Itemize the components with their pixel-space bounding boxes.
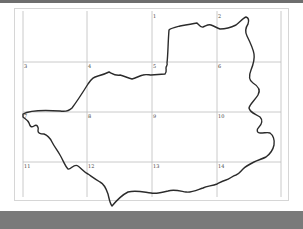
grid-label-5: 5 (153, 64, 156, 69)
grid-label-9: 9 (153, 114, 156, 119)
grid-label-6: 6 (218, 64, 221, 69)
grid-label-14: 14 (218, 164, 224, 169)
grid-label-12: 12 (88, 164, 94, 169)
grid-label-7: 7 (24, 114, 27, 119)
grid-label-3: 3 (24, 64, 27, 69)
region-outline (23, 17, 274, 206)
bottom-bar (0, 211, 303, 229)
grid-label-13: 13 (153, 164, 159, 169)
grid-label-8: 8 (88, 114, 91, 119)
grid-label-2: 2 (218, 14, 221, 19)
grid-label-4: 4 (88, 64, 91, 69)
grid-label-1: 1 (153, 14, 156, 19)
grid-label-10: 10 (218, 114, 224, 119)
map-grid (0, 0, 303, 229)
grid-label-11: 11 (24, 164, 30, 169)
